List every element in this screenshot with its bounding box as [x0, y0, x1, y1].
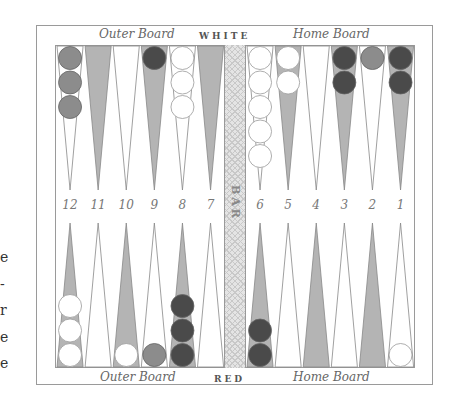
checker-dark[interactable] — [389, 71, 412, 94]
point-number-3: 3 — [330, 198, 358, 212]
point-bottom-7[interactable] — [198, 223, 224, 367]
point-top-10[interactable] — [113, 46, 139, 190]
checker-white[interactable] — [115, 344, 138, 367]
checker-white[interactable] — [389, 344, 412, 367]
point-number-9: 9 — [140, 198, 168, 212]
checker-gray[interactable] — [361, 47, 384, 70]
point-bottom-3[interactable] — [331, 223, 357, 367]
checker-dark[interactable] — [333, 47, 356, 70]
checker-dark[interactable] — [171, 344, 194, 367]
checker-gray[interactable] — [59, 71, 82, 94]
point-number-5: 5 — [274, 198, 302, 212]
checker-dark[interactable] — [389, 47, 412, 70]
point-number-4: 4 — [302, 198, 330, 212]
point-bottom-2[interactable] — [359, 223, 385, 367]
point-number-11: 11 — [84, 198, 112, 212]
bottom-outer-board-label: Outer Board — [100, 370, 176, 384]
checker-white[interactable] — [171, 96, 194, 119]
point-number-2: 2 — [358, 198, 386, 212]
point-bottom-5[interactable] — [275, 223, 301, 367]
red-side-label: RED — [214, 374, 245, 384]
point-number-1: 1 — [387, 198, 415, 212]
checker-white[interactable] — [277, 47, 300, 70]
point-number-7: 7 — [197, 198, 225, 212]
point-top-4[interactable] — [303, 46, 329, 190]
checker-dark[interactable] — [171, 295, 194, 318]
checker-gray[interactable] — [59, 47, 82, 70]
checker-white[interactable] — [249, 71, 272, 94]
point-number-10: 10 — [112, 198, 140, 212]
point-bottom-4[interactable] — [303, 223, 329, 367]
checker-dark[interactable] — [143, 47, 166, 70]
checker-white[interactable] — [249, 47, 272, 70]
checker-dark[interactable] — [249, 319, 272, 342]
bar-label: BAR — [229, 185, 242, 221]
checker-dark[interactable] — [249, 344, 272, 367]
checker-white[interactable] — [59, 344, 82, 367]
checker-white[interactable] — [249, 145, 272, 168]
point-number-6: 6 — [246, 198, 274, 212]
point-number-12: 12 — [56, 198, 84, 212]
point-number-8: 8 — [168, 198, 196, 212]
checker-white[interactable] — [59, 295, 82, 318]
bottom-home-board-label: Home Board — [293, 370, 370, 384]
checker-gray[interactable] — [59, 96, 82, 119]
point-bottom-11[interactable] — [85, 223, 111, 367]
checker-white[interactable] — [249, 96, 272, 119]
checker-dark[interactable] — [333, 71, 356, 94]
checker-white[interactable] — [59, 319, 82, 342]
checker-white[interactable] — [171, 47, 194, 70]
checker-dark[interactable] — [171, 319, 194, 342]
point-top-11[interactable] — [85, 46, 111, 190]
checker-white[interactable] — [171, 71, 194, 94]
checker-gray[interactable] — [143, 344, 166, 367]
checker-white[interactable] — [249, 120, 272, 143]
checker-white[interactable] — [277, 71, 300, 94]
point-top-7[interactable] — [198, 46, 224, 190]
